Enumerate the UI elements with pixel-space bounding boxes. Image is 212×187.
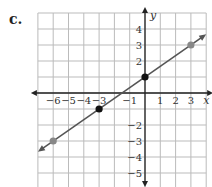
- data-point: [141, 73, 148, 80]
- data-point: [96, 105, 103, 112]
- data-point: [50, 137, 57, 144]
- x-tick-label: 3: [188, 95, 194, 106]
- x-tick-label: 2: [172, 95, 178, 106]
- coordinate-graph: −6−5−4−3−1123432−2−3−4−5xy: [0, 0, 212, 187]
- x-tick-label: −4: [76, 95, 91, 106]
- x-tick-label: 1: [157, 95, 163, 106]
- y-tick-label: −5: [127, 168, 142, 179]
- y-tick-label: −4: [127, 152, 142, 163]
- line-arrow-right-icon: [199, 34, 206, 40]
- y-tick-label: 3: [136, 40, 142, 51]
- x-tick-label: −3: [92, 95, 107, 106]
- x-tick-label: −6: [46, 95, 61, 106]
- y-tick-label: −2: [127, 120, 142, 131]
- y-tick-label: 4: [136, 24, 142, 35]
- x-tick-label: −5: [61, 95, 76, 106]
- x-tick-label: −1: [122, 95, 137, 106]
- y-axis-up-arrow-icon: [142, 7, 148, 13]
- y-tick-label: 2: [136, 56, 142, 67]
- x-axis-label: x: [203, 94, 210, 107]
- y-axis-label: y: [149, 9, 157, 22]
- y-axis-down-arrow-icon: [142, 181, 148, 187]
- line-arrow-left-icon: [38, 145, 45, 151]
- x-axis-left-arrow-icon: [31, 90, 37, 96]
- y-tick-label: −3: [127, 136, 142, 147]
- data-point: [187, 41, 194, 48]
